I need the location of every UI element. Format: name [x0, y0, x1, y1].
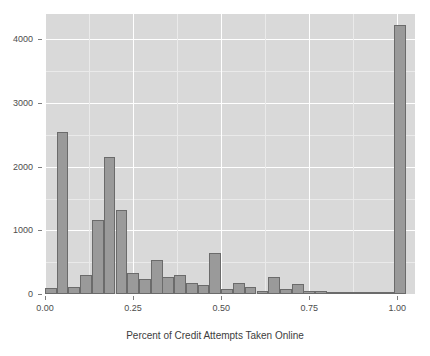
y-axis-tick-label: 4000 [3, 34, 33, 44]
histogram-bar [68, 287, 80, 294]
histogram-bar [350, 292, 362, 294]
x-axis-tick-mark [221, 296, 222, 300]
histogram-bar [362, 292, 374, 294]
y-axis-tick-mark [38, 230, 42, 231]
x-axis-tick-label: 0.25 [124, 303, 142, 313]
gridline-major-vertical [45, 14, 46, 294]
gridline-major-vertical [133, 14, 134, 294]
histogram-bar [162, 277, 174, 294]
x-axis-tick-label: 0.00 [36, 303, 54, 313]
y-axis-tick-mark [38, 103, 42, 104]
histogram-bar [292, 284, 304, 294]
histogram-bar [174, 275, 186, 294]
y-axis-tick-mark [38, 167, 42, 168]
x-axis-tick-mark [397, 296, 398, 300]
x-axis-tick-label: 0.75 [301, 303, 319, 313]
histogram-bar [327, 292, 339, 294]
histogram-bar [116, 210, 128, 294]
gridline-major-horizontal [45, 39, 415, 40]
histogram-bar [104, 157, 116, 294]
plot-panel [45, 14, 415, 294]
gridline-minor-horizontal [45, 135, 415, 136]
histogram-bar [257, 291, 269, 294]
histogram-bar [339, 292, 351, 294]
gridline-minor-vertical [89, 14, 90, 294]
histogram-bar [80, 275, 92, 294]
x-axis-tick-label: 1.00 [389, 303, 407, 313]
x-axis-title: Percent of Credit Attempts Taken Online [0, 330, 430, 341]
gridline-major-vertical [309, 14, 310, 294]
x-axis-tick-label: 0.50 [212, 303, 230, 313]
histogram-figure: 01000200030004000 0.000.250.500.751.00 P… [0, 0, 430, 356]
histogram-bar [221, 289, 233, 294]
y-axis-tick-label: 1000 [3, 225, 33, 235]
gridline-major-horizontal [45, 103, 415, 104]
y-axis-tick-mark [38, 39, 42, 40]
histogram-bar [151, 260, 163, 294]
gridline-minor-horizontal [45, 71, 415, 72]
histogram-bar [45, 288, 57, 294]
histogram-bar [57, 132, 69, 294]
gridline-minor-vertical [265, 14, 266, 294]
histogram-bar [198, 285, 210, 294]
histogram-bar [186, 283, 198, 294]
gridline-major-horizontal [45, 167, 415, 168]
histogram-bar [139, 279, 151, 294]
y-axis-tick-label: 3000 [3, 98, 33, 108]
histogram-bar [315, 291, 327, 294]
histogram-bar [268, 277, 280, 294]
gridline-minor-vertical [177, 14, 178, 294]
x-axis-tick-mark [309, 296, 310, 300]
x-axis-tick-mark [45, 296, 46, 300]
gridline-major-vertical [221, 14, 222, 294]
histogram-bar [303, 291, 315, 294]
histogram-bar [374, 292, 386, 294]
histogram-bar [92, 220, 104, 294]
histogram-bar [233, 283, 245, 294]
gridline-minor-horizontal [45, 199, 415, 200]
histogram-bar [209, 253, 221, 294]
histogram-bar [280, 289, 292, 294]
histogram-bar [394, 25, 406, 294]
y-axis-tick-mark [38, 294, 42, 295]
y-axis-tick-label: 0 [3, 289, 33, 299]
gridline-minor-vertical [353, 14, 354, 294]
x-axis-tick-mark [133, 296, 134, 300]
y-axis-tick-label: 2000 [3, 162, 33, 172]
histogram-bar [127, 273, 139, 294]
histogram-bar [245, 287, 257, 294]
